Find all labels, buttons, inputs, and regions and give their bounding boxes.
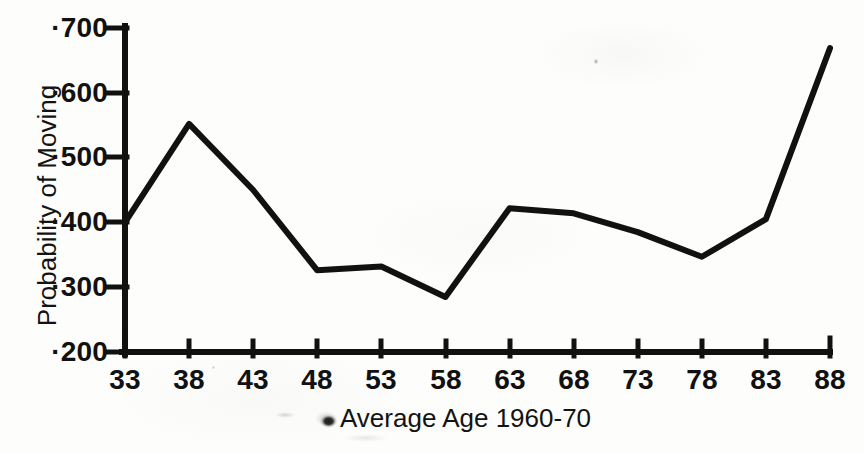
chart-page: ·700 ·600 ·500 ·400 ·300 ·200 33 38 43 4… — [0, 0, 864, 453]
x-tick-label-83: 83 — [736, 364, 796, 396]
x-tick-label-43: 43 — [223, 364, 283, 396]
x-tick-label-68: 68 — [544, 364, 604, 396]
x-tick-label-63: 63 — [480, 364, 540, 396]
x-tick-label-58: 58 — [416, 364, 476, 396]
y-axis-title: Probability of Moving — [32, 56, 63, 356]
x-tick-label-88: 88 — [800, 364, 860, 396]
x-tick-label-78: 78 — [672, 364, 732, 396]
x-tick-label-33: 33 — [95, 364, 155, 396]
x-tick-label-48: 48 — [287, 364, 347, 396]
data-series-line — [125, 48, 830, 297]
x-tick-label-38: 38 — [159, 364, 219, 396]
x-tick-label-73: 73 — [608, 364, 668, 396]
x-axis-title: Average Age 1960-70 — [340, 403, 591, 434]
y-tick-label-700: ·700 — [0, 12, 108, 44]
x-tick-label-53: 53 — [351, 364, 411, 396]
